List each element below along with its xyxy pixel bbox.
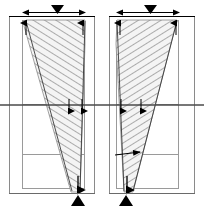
left-panel <box>0 5 102 206</box>
right-strut-zone <box>116 20 177 192</box>
engineering-diagram-figure <box>0 0 204 212</box>
left-support-triangle-icon <box>71 195 85 206</box>
right-support-triangle-icon <box>119 195 133 206</box>
left-top-dimension <box>9 10 95 17</box>
right-panel <box>102 5 204 206</box>
diagram-canvas <box>0 0 204 212</box>
